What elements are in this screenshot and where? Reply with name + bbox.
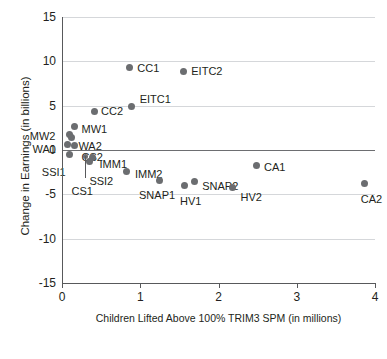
data-point	[180, 68, 187, 75]
gridline-horizontal	[62, 239, 375, 240]
x-tick-label: 0	[50, 290, 74, 304]
data-point-label: WA2	[78, 141, 101, 152]
data-point	[181, 182, 188, 189]
data-point-label: CC2	[101, 106, 123, 117]
data-point-label: HV2	[241, 192, 262, 203]
scatter-chart: CC1EITC2EITC1CC2MW1MW2WA2WA1CS2SSI1CS1IM…	[0, 0, 387, 359]
gridline-horizontal	[62, 61, 375, 62]
plot-area: CC1EITC2EITC1CC2MW1MW2WA2WA1CS2SSI1CS1IM…	[62, 17, 375, 283]
y-tick-label: 0	[26, 144, 56, 156]
zero-line	[62, 150, 375, 151]
data-point	[229, 184, 236, 191]
data-point-label: SNAP1	[139, 190, 175, 201]
data-point	[71, 142, 78, 149]
data-point	[66, 151, 73, 158]
x-axis-tick	[297, 283, 298, 288]
data-point	[91, 108, 98, 115]
y-tick-label: -10	[26, 233, 56, 245]
data-point	[71, 123, 78, 130]
data-point	[128, 103, 135, 110]
x-axis-tick	[62, 283, 63, 288]
y-tick-label: 10	[26, 55, 56, 67]
gridline-horizontal	[62, 17, 375, 18]
data-point	[126, 64, 133, 71]
data-point	[156, 177, 163, 184]
data-point	[191, 178, 198, 185]
y-axis-line	[62, 17, 63, 283]
data-point	[253, 162, 260, 169]
data-point-label: CC1	[137, 63, 159, 74]
x-axis-title: Children Lifted Above 100% TRIM3 SPM (in…	[62, 312, 375, 324]
data-point-label: CA2	[361, 194, 382, 205]
data-point-label: EITC2	[191, 66, 222, 77]
y-tick-label: -5	[26, 188, 56, 200]
data-point	[64, 141, 71, 148]
data-point-label: MW2	[30, 131, 56, 142]
data-point-label: CS1	[71, 186, 92, 197]
data-point-label: MW1	[82, 124, 108, 135]
data-point-label: SSI2	[89, 176, 113, 187]
x-tick-label: 3	[285, 290, 309, 304]
x-tick-label: 1	[128, 290, 152, 304]
data-point-label: EITC1	[140, 94, 171, 105]
x-tick-label: 4	[363, 290, 387, 304]
data-point-label: HV1	[180, 196, 201, 207]
x-tick-label: 2	[207, 290, 231, 304]
data-point	[361, 180, 368, 187]
data-point-label: CA1	[264, 162, 285, 173]
x-axis-tick	[140, 283, 141, 288]
y-tick-label: -15	[26, 277, 56, 289]
data-point	[86, 158, 93, 165]
data-point	[123, 168, 130, 175]
data-point	[68, 134, 75, 141]
x-axis-tick	[219, 283, 220, 288]
x-axis-tick	[375, 283, 376, 288]
y-tick-label: 5	[26, 100, 56, 112]
gridline-horizontal	[62, 194, 375, 195]
y-tick-label: 15	[26, 11, 56, 23]
